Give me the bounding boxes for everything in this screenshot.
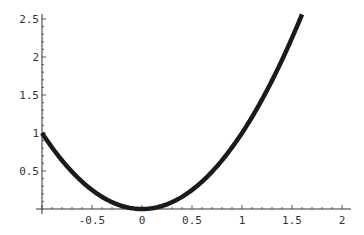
x-tick-label: 1.5	[282, 214, 302, 227]
y-tick-label: 1.5	[19, 89, 39, 102]
x-tick-label: 0.5	[182, 214, 202, 227]
x-tick-label: 1	[239, 214, 246, 227]
tick-marks	[42, 19, 342, 209]
parabola-curve	[42, 14, 302, 209]
y-tick-label: 2	[32, 51, 39, 64]
x-tick-label: 2	[339, 214, 346, 227]
y-tick-label: 1	[32, 127, 39, 140]
y-tick-label: 0.5	[19, 165, 39, 178]
chart-plot: -0.500.511.520.511.522.5	[0, 0, 364, 235]
x-tick-label: -0.5	[79, 214, 106, 227]
y-tick-label: 2.5	[19, 13, 39, 26]
x-tick-label: 0	[139, 214, 146, 227]
